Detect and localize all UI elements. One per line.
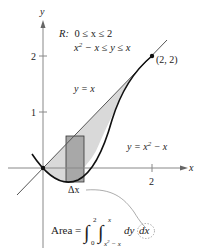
shaded-region bbox=[43, 56, 152, 181]
y-tick-label-1: 1 bbox=[31, 107, 36, 118]
region-y-bounds-rest: − x ≤ y ≤ x bbox=[82, 42, 131, 53]
region-x-bounds: 0 ≤ x ≤ 2 bbox=[75, 28, 113, 39]
double-integral-diagram: y x 2 1 2 R: 0 ≤ x ≤ 2 x2 − x ≤ y ≤ x (2… bbox=[0, 0, 197, 251]
inner-lower-limit: x2 − x bbox=[103, 239, 122, 248]
y-axis-arrow-icon bbox=[41, 20, 46, 28]
region-y-bounds: x2 − x ≤ y ≤ x bbox=[73, 41, 131, 53]
strip-width-label: Δx bbox=[68, 184, 79, 195]
outer-integral-sign: ∫ bbox=[82, 221, 91, 245]
lower-curve-label: y = x2 − x bbox=[126, 140, 168, 152]
x-axis-label: x bbox=[188, 162, 194, 173]
outer-lower-limit: 0 bbox=[91, 239, 95, 247]
representative-strip bbox=[66, 136, 84, 182]
lower-label-base: y = x bbox=[126, 141, 148, 152]
y-tick-label-2: 2 bbox=[31, 51, 36, 62]
outer-upper-limit: 2 bbox=[93, 216, 97, 224]
inner-upper-limit: x bbox=[107, 216, 112, 224]
origin-point bbox=[41, 166, 45, 170]
intersection-point-label: (2, 2) bbox=[156, 54, 178, 66]
area-prefix: Area = bbox=[51, 224, 81, 236]
y-axis-label: y bbox=[39, 6, 45, 17]
region-label: R: bbox=[58, 28, 69, 39]
area-formula: Area = ∫ 2 0 ∫ x x2 − x dy dx bbox=[51, 216, 155, 248]
intersection-point bbox=[150, 54, 154, 58]
inner-lower-rest: − x bbox=[110, 240, 122, 248]
differential: dx bbox=[139, 224, 150, 236]
integrand: dy bbox=[124, 224, 135, 236]
region-definition: R: 0 ≤ x ≤ 2 bbox=[58, 28, 112, 39]
upper-curve-label: y = x bbox=[73, 83, 95, 94]
x-axis-arrow-icon bbox=[180, 166, 188, 171]
x-tick-label-2: 2 bbox=[149, 176, 154, 187]
lower-label-rest: − x bbox=[151, 141, 168, 152]
